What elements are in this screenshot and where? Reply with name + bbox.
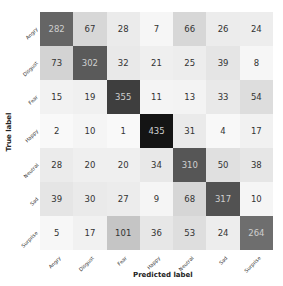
heatmap-cell: 53 — [173, 216, 206, 250]
heatmap-cell: 31 — [173, 114, 206, 148]
y-tick-label: Fear — [27, 94, 39, 106]
heatmap-cell: 34 — [140, 148, 173, 182]
x-tick-label: Surprise — [243, 255, 262, 274]
heatmap-cell: 38 — [240, 148, 273, 182]
heatmap-cell: 282 — [40, 12, 73, 46]
x-tick-label: Disgust — [78, 255, 96, 273]
heatmap-cell: 20 — [107, 148, 140, 182]
x-tick-label: Fear — [116, 255, 128, 267]
heatmap-cell: 73 — [40, 46, 73, 80]
y-tick-label: Neutral — [22, 162, 39, 179]
heatmap-grid: 2826728766262473302322125398151935511133… — [40, 12, 273, 250]
heatmap-cell: 67 — [73, 12, 106, 46]
heatmap-cell: 26 — [206, 12, 239, 46]
heatmap-cell: 21 — [140, 46, 173, 80]
heatmap-cell: 33 — [206, 80, 239, 114]
heatmap-cell: 24 — [240, 12, 273, 46]
heatmap-cell: 36 — [140, 216, 173, 250]
heatmap-cell: 2 — [40, 114, 73, 148]
heatmap-cell: 317 — [206, 182, 239, 216]
heatmap-cell: 27 — [107, 182, 140, 216]
heatmap-cell: 9 — [140, 182, 173, 216]
heatmap-cell: 24 — [206, 216, 239, 250]
heatmap-cell: 13 — [173, 80, 206, 114]
heatmap-cell: 4 — [206, 114, 239, 148]
y-tick-label: Happy — [23, 128, 39, 144]
heatmap-cell: 20 — [73, 148, 106, 182]
y-tick-label: Angry — [24, 26, 39, 41]
heatmap-cell: 54 — [240, 80, 273, 114]
heatmap-cell: 30 — [73, 182, 106, 216]
heatmap-cell: 39 — [40, 182, 73, 216]
heatmap-cell: 68 — [173, 182, 206, 216]
heatmap-cell: 355 — [107, 80, 140, 114]
x-axis-label: Predicted label — [133, 271, 193, 279]
x-tick-label: Neutral — [178, 255, 195, 272]
heatmap-cell: 66 — [173, 12, 206, 46]
y-tick-label: Disgust — [22, 60, 40, 78]
y-tick-label: Sad — [28, 196, 39, 207]
heatmap-cell: 19 — [73, 80, 106, 114]
heatmap-cell: 15 — [40, 80, 73, 114]
heatmap-cell: 32 — [107, 46, 140, 80]
heatmap-cell: 28 — [107, 12, 140, 46]
heatmap-cell: 39 — [206, 46, 239, 80]
heatmap-cell: 7 — [140, 12, 173, 46]
heatmap-cell: 28 — [40, 148, 73, 182]
heatmap-cell: 10 — [240, 182, 273, 216]
heatmap-cell: 264 — [240, 216, 273, 250]
heatmap-cell: 50 — [206, 148, 239, 182]
heatmap-cell: 11 — [140, 80, 173, 114]
heatmap-cell: 10 — [73, 114, 106, 148]
heatmap-cell: 5 — [40, 216, 73, 250]
heatmap-cell: 25 — [173, 46, 206, 80]
heatmap-cell: 17 — [73, 216, 106, 250]
y-tick-label: Surprise — [20, 230, 39, 249]
heatmap-cell: 8 — [240, 46, 273, 80]
heatmap-cell: 1 — [107, 114, 140, 148]
x-tick-label: Angry — [47, 255, 62, 270]
heatmap-cell: 17 — [240, 114, 273, 148]
x-tick-label: Happy — [146, 255, 162, 271]
heatmap-cell: 101 — [107, 216, 140, 250]
x-tick-label: Sad — [217, 255, 228, 266]
heatmap-cell: 302 — [73, 46, 106, 80]
heatmap-cell: 310 — [173, 148, 206, 182]
y-axis-label: True label — [5, 113, 13, 152]
heatmap-cell: 435 — [140, 114, 173, 148]
